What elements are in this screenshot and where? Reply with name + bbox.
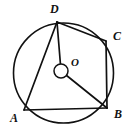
side-BC [106,41,107,108]
side-CD [57,22,106,41]
radius-OB [61,71,107,108]
vertex-label-b: B [114,108,122,120]
center-marker-circle [54,64,68,78]
vertex-label-a: A [10,112,18,124]
side-AB [24,108,107,110]
side-DA [24,22,57,110]
center-label-o: O [71,57,79,68]
vertex-label-d: D [50,3,59,15]
vertex-label-c: C [113,30,121,42]
geometry-figure: D C A B O [0,0,134,137]
